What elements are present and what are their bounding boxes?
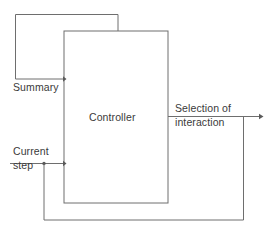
summary-feedback-path [16, 15, 119, 80]
current-step-arrowhead-icon [63, 161, 67, 166]
current-step-label-line2: step [13, 159, 33, 171]
bottom-feedback-path [44, 117, 244, 221]
selection-label-line2: interaction [175, 116, 225, 128]
selection-label-line1: Selection of [175, 102, 231, 114]
summary-label: Summary [13, 81, 59, 94]
current-step-label-line1: Current [13, 145, 49, 157]
controller-label: Controller [89, 111, 136, 124]
selection-output-arrowhead-icon [259, 114, 264, 119]
block-diagram: Controller Summary Currentstep Selection… [0, 0, 268, 231]
selection-of-interaction-label: Selection ofinteraction [175, 101, 231, 129]
current-step-label: Currentstep [13, 144, 49, 172]
summary-arrowhead-icon [63, 76, 67, 81]
